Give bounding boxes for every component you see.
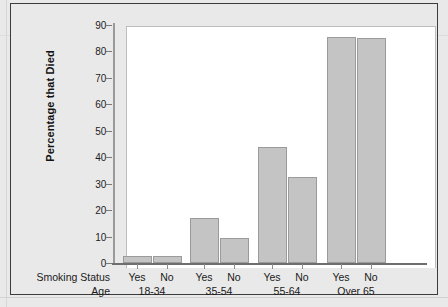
x-tick-mark-35-54-yes	[204, 264, 205, 269]
x-tick-mark-over-65-no	[371, 264, 372, 269]
y-tick-label-20: 20	[80, 205, 106, 216]
x-label-smoking-over-65-no: No	[351, 271, 391, 283]
x-label-age-over-65: Over 65	[316, 285, 396, 297]
y-tick-mark-30	[106, 184, 112, 185]
y-tick-label-60: 60	[80, 99, 106, 110]
figure-page: Percentage that Died 0102030405060708090…	[0, 0, 448, 307]
x-tick-mark-35-54-no	[234, 264, 235, 269]
y-tick-mark-90	[106, 25, 112, 26]
bar-over-65-yes	[327, 37, 356, 263]
x-tick-mark-55-64-yes	[272, 264, 273, 269]
x-label-age-55-64: 55-64	[247, 285, 327, 297]
y-tick-label-10: 10	[80, 231, 106, 242]
bar-18-34-yes	[123, 256, 152, 263]
x-tick-mark-over-65-yes	[341, 264, 342, 269]
bar-55-64-no	[288, 177, 317, 263]
y-tick-label-0: 0	[80, 258, 106, 269]
y-axis-ticks: 0102030405060708090	[74, 0, 106, 307]
bar-55-64-yes	[258, 147, 287, 263]
y-tick-mark-0	[106, 263, 112, 264]
x-label-smoking-55-64-no: No	[282, 271, 322, 283]
y-tick-label-80: 80	[80, 46, 106, 57]
page-edge-line-left	[6, 0, 7, 307]
page-edge-line-bottom	[0, 297, 448, 298]
y-tick-mark-10	[106, 237, 112, 238]
y-tick-mark-70	[106, 78, 112, 79]
x-tick-mark-18-34-no	[167, 264, 168, 269]
y-tick-label-50: 50	[80, 125, 106, 136]
x-tick-mark-55-64-no	[302, 264, 303, 269]
y-tick-mark-40	[106, 157, 112, 158]
y-tick-label-40: 40	[80, 152, 106, 163]
y-tick-mark-50	[106, 131, 112, 132]
x-label-smoking-18-34-no: No	[147, 271, 187, 283]
x-axis-row-title-age: Age	[24, 285, 110, 297]
y-tick-mark-60	[106, 104, 112, 105]
y-axis-title: Percentage that Died	[44, 26, 56, 186]
bar-35-54-yes	[190, 218, 219, 263]
bar-over-65-no	[357, 38, 386, 263]
y-tick-mark-20	[106, 210, 112, 211]
y-tick-label-90: 90	[80, 20, 106, 31]
y-tick-mark-80	[106, 51, 112, 52]
x-axis-line	[112, 263, 427, 265]
bar-18-34-no	[153, 256, 182, 263]
y-tick-label-30: 30	[80, 178, 106, 189]
y-tick-label-70: 70	[80, 72, 106, 83]
x-axis-row-title-smoking-status: Smoking Status	[24, 271, 110, 283]
x-label-smoking-35-54-no: No	[214, 271, 254, 283]
y-axis-line	[113, 23, 115, 264]
x-tick-mark-18-34-yes	[137, 264, 138, 269]
bar-35-54-no	[220, 238, 249, 263]
